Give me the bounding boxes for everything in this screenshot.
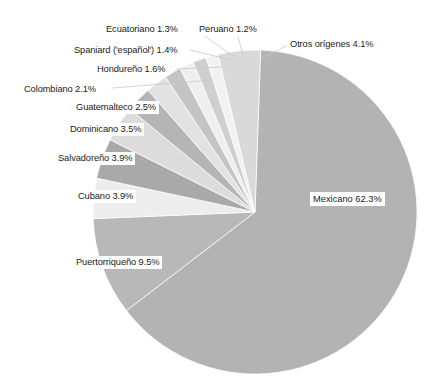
- slice-label-cubano: Cubano 3.9%: [75, 190, 136, 203]
- slice-label-mexicano: Mexicano 62.3%: [310, 192, 385, 206]
- slice-label-puertorriqueno: Puertorriqueño 9.5%: [73, 256, 162, 269]
- slice-label-colombiano: Colombiano 2.1%: [21, 83, 99, 96]
- slice-label-dominicano: Dominicano 3.5%: [67, 123, 144, 136]
- pie-chart-figure: Ecuatoriano 1.3% Peruano 1.2% Otros oríg…: [0, 0, 442, 383]
- slice-label-spaniard: Spaniard ('español') 1.4%: [71, 44, 180, 57]
- pie-slices-group: [93, 50, 417, 374]
- slice-label-otros-origenes: Otros orígenes 4.1%: [287, 38, 376, 51]
- slice-label-ecuatoriano: Ecuatoriano 1.3%: [103, 23, 181, 36]
- slice-label-hondureno: Hondureño 1.6%: [94, 63, 168, 76]
- slice-label-peruano: Peruano 1.2%: [196, 23, 260, 36]
- slice-label-guatemalteco: Guatemalteco 2.5%: [73, 101, 159, 114]
- slice-label-salvadoreno: Salvadoreño 3.9%: [55, 152, 135, 165]
